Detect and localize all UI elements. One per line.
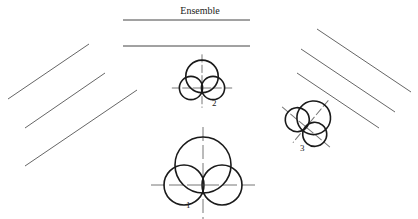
figure-label-3: 3	[300, 143, 305, 153]
right-wave-line	[317, 29, 411, 92]
vertical-axis	[293, 100, 328, 142]
diagram-canvas	[0, 0, 418, 219]
polar-pattern-3	[269, 80, 352, 162]
right-wave-line	[301, 49, 395, 112]
polar-pattern-2	[172, 54, 232, 107]
figure-label-2: 2	[212, 98, 217, 108]
left-wave-line	[25, 90, 137, 166]
figure-label-1: 1	[186, 200, 191, 210]
left-wave-line	[8, 44, 89, 99]
ensemble-title: Ensemble	[150, 5, 250, 16]
polar-pattern-1	[151, 127, 255, 219]
